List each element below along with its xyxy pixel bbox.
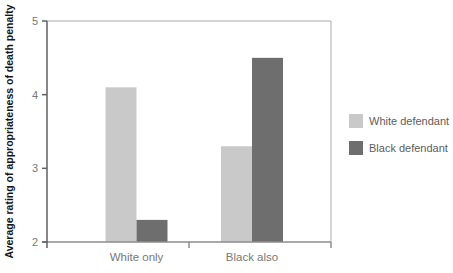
legend: White defendant Black defendant [349, 114, 449, 155]
legend-swatch-white-defendant [349, 114, 363, 128]
legend-swatch-black-defendant [349, 141, 363, 155]
plot-frame [47, 21, 331, 242]
bar-chart: 2345White onlyBlack also Average rating … [0, 0, 453, 273]
y-axis-title: Average rating of appropriateness of dea… [2, 0, 17, 268]
bar-black-defendant-1 [252, 58, 283, 242]
bar-black-defendant-0 [137, 220, 168, 242]
legend-item-white-defendant: White defendant [349, 114, 449, 128]
legend-item-black-defendant: Black defendant [349, 141, 449, 155]
y-tick-label-2: 2 [32, 236, 38, 248]
bar-white-defendant-0 [106, 87, 137, 242]
x-category-label-black-also: Black also [226, 251, 278, 263]
y-tick-label-3: 3 [32, 162, 38, 174]
bar-white-defendant-1 [221, 146, 252, 242]
y-tick-label-4: 4 [32, 89, 38, 101]
legend-label-black-defendant: Black defendant [369, 142, 448, 154]
x-category-label-white-only: White only [110, 251, 164, 263]
y-tick-label-5: 5 [32, 15, 38, 27]
legend-label-white-defendant: White defendant [369, 115, 449, 127]
